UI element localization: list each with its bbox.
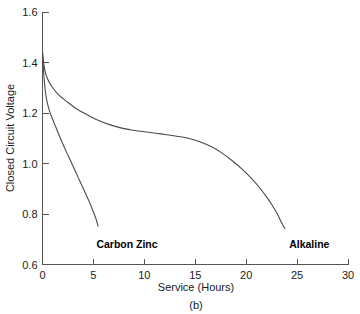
series-label-alkaline: Alkaline	[289, 238, 329, 250]
figure-container: 0.60.81.01.21.41.6 051015202530 Carbon Z…	[0, 0, 360, 314]
chart-plot: 0.60.81.01.21.41.6 051015202530 Carbon Z…	[0, 0, 360, 314]
y-tick-group: 0.60.81.01.21.41.6	[22, 6, 48, 271]
y-tick-label: 0.8	[22, 208, 37, 220]
series-line-carbon-zinc	[43, 52, 99, 226]
series-line-alkaline	[43, 52, 285, 228]
y-tick-label: 1.2	[22, 107, 37, 119]
x-tick-group: 051015202530	[39, 259, 354, 281]
x-tick-label: 10	[138, 269, 150, 281]
x-tick-label: 30	[342, 269, 354, 281]
series-label-group: Carbon ZincAlkaline	[96, 238, 329, 250]
y-tick-label: 1.6	[22, 6, 37, 18]
x-tick-label: 15	[189, 269, 201, 281]
x-axis-title: Service (Hours)	[158, 281, 234, 293]
x-tick-label: 20	[240, 269, 252, 281]
x-tick-label: 0	[39, 269, 45, 281]
y-tick-label: 1.0	[22, 158, 37, 170]
series-group	[43, 52, 285, 228]
y-tick-label: 0.6	[22, 259, 37, 271]
y-axis-title: Closed Circuit Voltage	[4, 84, 16, 192]
y-tick-label: 1.4	[22, 57, 37, 69]
x-tick-label: 5	[90, 269, 96, 281]
figure-caption: (b)	[189, 299, 202, 311]
series-label-carbon-zinc: Carbon Zinc	[96, 238, 157, 250]
x-tick-label: 25	[291, 269, 303, 281]
